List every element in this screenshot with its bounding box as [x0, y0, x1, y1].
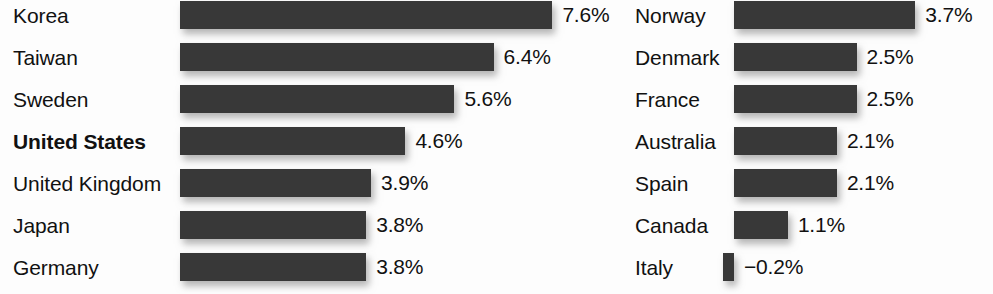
bar-row: United States4.6%: [0, 126, 620, 168]
category-label: Japan: [13, 210, 70, 252]
bar-track: 4.6%: [180, 126, 620, 168]
chart-panel-left: Korea7.6%Taiwan6.4%Sweden5.6%United Stat…: [0, 0, 620, 294]
bar: [734, 1, 915, 29]
bar-chart: Korea7.6%Taiwan6.4%Sweden5.6%United Stat…: [0, 0, 993, 294]
bar: [734, 211, 788, 239]
bar: [180, 211, 366, 239]
bar: [180, 1, 552, 29]
bar-row: Korea7.6%: [0, 0, 620, 42]
bar-row: Norway3.7%: [620, 0, 993, 42]
category-label: Australia: [635, 126, 716, 168]
bar: [734, 43, 857, 71]
bar-row: France2.5%: [620, 84, 993, 126]
bar: [734, 127, 837, 155]
bar: [180, 127, 405, 155]
bar-value-label: 3.7%: [925, 0, 972, 30]
bar: [734, 85, 857, 113]
bar-value-label: 2.1%: [847, 126, 894, 156]
bar-track: 1.1%: [734, 210, 993, 252]
category-label: Denmark: [635, 42, 720, 84]
category-label: Germany: [13, 252, 99, 294]
bar-row: United Kingdom3.9%: [0, 168, 620, 210]
bar: [180, 253, 366, 281]
bar: [180, 43, 494, 71]
bar-track: 3.8%: [180, 252, 620, 294]
bar-row: Taiwan6.4%: [0, 42, 620, 84]
category-label: Spain: [635, 168, 688, 210]
bar-row: Denmark2.5%: [620, 42, 993, 84]
bar-value-label: 1.1%: [798, 210, 845, 240]
category-label: United Kingdom: [13, 168, 161, 210]
bar-value-label: 3.8%: [376, 252, 423, 282]
bar-track: 2.5%: [734, 42, 993, 84]
category-label: France: [635, 84, 700, 126]
bar-value-label: 2.5%: [867, 84, 914, 114]
bar-track: 2.1%: [734, 126, 993, 168]
bar-row: Australia2.1%: [620, 126, 993, 168]
bar-track: 5.6%: [180, 84, 620, 126]
bar-row: Germany3.8%: [0, 252, 620, 294]
category-label: Norway: [635, 0, 706, 42]
bar-track: 3.7%: [734, 0, 993, 42]
bar: [180, 169, 371, 197]
bar-row: Sweden5.6%: [0, 84, 620, 126]
category-label: Korea: [13, 0, 69, 42]
bar-track: 3.8%: [180, 210, 620, 252]
bar-value-label: 3.9%: [381, 168, 428, 198]
bar-row: Italy−0.2%: [620, 252, 993, 294]
bar: [723, 253, 734, 281]
bar-value-label: 2.5%: [867, 42, 914, 72]
bar-row: Japan3.8%: [0, 210, 620, 252]
bar-track: 7.6%: [180, 0, 620, 42]
bar-value-label: 2.1%: [847, 168, 894, 198]
category-label: Sweden: [13, 84, 88, 126]
category-label: United States: [13, 126, 146, 168]
bar-track: 6.4%: [180, 42, 620, 84]
category-label: Italy: [635, 252, 673, 294]
bar-row: Spain2.1%: [620, 168, 993, 210]
bar-value-label: 6.4%: [504, 42, 551, 72]
bar-value-label: 5.6%: [464, 84, 511, 114]
bar-value-label: −0.2%: [744, 252, 803, 282]
bar: [180, 85, 454, 113]
bar-value-label: 3.8%: [376, 210, 423, 240]
bar-value-label: 7.6%: [562, 0, 609, 30]
chart-panel-right: Norway3.7%Denmark2.5%France2.5%Australia…: [620, 0, 993, 294]
bar-track: −0.2%: [734, 252, 993, 294]
bar-value-label: 4.6%: [415, 126, 462, 156]
category-label: Canada: [635, 210, 708, 252]
bar-row: Canada1.1%: [620, 210, 993, 252]
bar-track: 2.5%: [734, 84, 993, 126]
category-label: Taiwan: [13, 42, 78, 84]
bar-track: 3.9%: [180, 168, 620, 210]
bar-track: 2.1%: [734, 168, 993, 210]
bar: [734, 169, 837, 197]
